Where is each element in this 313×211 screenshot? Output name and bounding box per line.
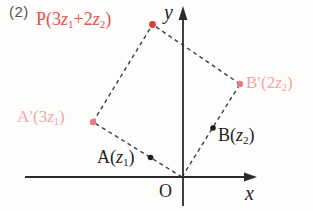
point-A-prime-label-var: z (47, 107, 54, 126)
complex-plane-figure: (2) P(3z1+2z2) A′(3z1) B′(2z2) A(z1) B(z… (0, 0, 313, 211)
y-axis-arrowhead-icon (179, 6, 188, 20)
x-axis-label: x (245, 183, 254, 203)
problem-number-label: (2) (9, 4, 29, 19)
point-A-prime-label-suf: ) (59, 107, 65, 126)
point-A-dot (148, 155, 154, 161)
point-P-label-var2: z (93, 9, 100, 29)
origin-label-text: O (159, 181, 172, 201)
plot-canvas (0, 0, 313, 211)
point-P-label-suf: ) (105, 9, 111, 29)
point-B-label-var: z (236, 125, 243, 145)
point-A-label-pre: A( (97, 147, 116, 167)
x-axis-label-text: x (245, 182, 254, 204)
point-B-prime-dot (237, 81, 243, 87)
point-A-prime-label-pre: A′(3 (17, 107, 47, 126)
point-B-prime-label-suf: ) (287, 73, 293, 92)
point-B-label-suf: ) (249, 125, 255, 145)
point-B-label-pre: B( (218, 125, 236, 145)
point-B-label: B(z2) (218, 126, 255, 144)
point-P-label: P(3z1+2z2) (36, 10, 111, 28)
point-A-prime-label: A′(3z1) (17, 108, 65, 125)
point-B-prime-label: B′(2z2) (246, 74, 293, 91)
point-A-label-var: z (116, 147, 123, 167)
dashed-line-A-prime-to-P (93, 25, 153, 123)
point-A-label-suf: ) (129, 147, 135, 167)
y-axis-label-text: y (164, 1, 173, 23)
y-axis-label: y (164, 2, 173, 22)
point-P-label-mid: +2 (74, 9, 93, 29)
point-A-label: A(z1) (97, 148, 135, 166)
point-B-dot (210, 125, 216, 131)
point-B-prime-label-pre: B′(2 (246, 73, 275, 92)
point-B-prime-label-var: z (275, 73, 282, 92)
dashed-line-B-prime-to-P (153, 25, 241, 85)
x-axis-arrowhead-icon (244, 173, 257, 182)
point-P-label-pre: P(3 (36, 9, 61, 29)
point-A-prime-dot (90, 119, 96, 125)
point-P-label-var1: z (61, 9, 68, 29)
problem-number-text: (2) (9, 3, 29, 20)
point-P-dot (149, 21, 156, 28)
origin-label: O (159, 182, 172, 200)
